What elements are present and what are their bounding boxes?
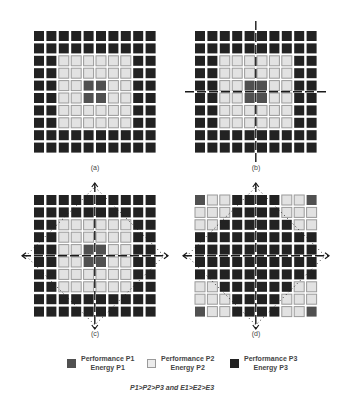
cell-P3 [232,31,242,41]
cell-P3 [282,282,292,292]
cell-P3 [133,105,143,115]
cell-P3 [59,307,69,317]
cell-P2 [282,307,292,317]
cell-P3 [257,195,267,205]
cell-P3 [195,56,205,66]
cell-P2 [294,294,304,304]
cell-P2 [282,195,292,205]
cell-P3 [245,143,255,153]
cell-P3 [220,43,230,53]
cell-P3 [71,43,81,53]
cell-P2 [232,81,242,91]
cell-P3 [34,245,44,255]
legend-item-p3: Performance P3 Energy P3 [230,354,297,372]
cell-P3 [34,56,44,66]
cell-P3 [96,294,106,304]
cell-P3 [96,31,106,41]
cell-P3 [294,257,304,267]
cell-P3 [195,93,205,103]
cell-P3 [245,31,255,41]
cell-P3 [195,143,205,153]
cell-P3 [307,81,317,91]
cell-P2 [108,257,118,267]
cell-P2 [294,207,304,217]
cell-P3 [133,31,143,41]
legend-item-p2: Performance P2 Energy P2 [147,354,214,372]
cell-P3 [121,207,131,217]
cell-P3 [46,68,56,78]
cell-P2 [220,118,230,128]
legend-performance-p2: Performance P2 [161,354,214,363]
cell-P2 [121,282,131,292]
cell-P3 [245,245,255,255]
cell-P3 [59,43,69,53]
cell-P1 [245,81,255,91]
cell-P2 [59,257,69,267]
cell-P2 [195,220,205,230]
cell-P3 [294,105,304,115]
cell-P3 [46,130,56,140]
cell-P1 [96,257,106,267]
panel-label-a: (a) [80,164,110,171]
cell-P3 [245,307,255,317]
cell-P3 [108,143,118,153]
cell-P2 [71,118,81,128]
cell-P3 [257,207,267,217]
cell-P3 [294,81,304,91]
cell-P3 [133,245,143,255]
cell-P2 [108,118,118,128]
cell-P3 [84,207,94,217]
cell-P3 [257,31,267,41]
cell-P3 [133,118,143,128]
cell-P3 [257,232,267,242]
cell-P3 [232,245,242,255]
cell-P3 [269,130,279,140]
legend-swatch-p1 [67,359,76,368]
cell-P3 [195,81,205,91]
cell-P2 [84,232,94,242]
cell-P2 [220,195,230,205]
cell-P3 [146,232,156,242]
cell-P2 [207,294,217,304]
cell-P3 [207,245,217,255]
cell-P2 [245,56,255,66]
cell-P3 [133,56,143,66]
cell-P2 [294,307,304,317]
cell-P1 [195,195,205,205]
cell-P3 [195,43,205,53]
cell-P2 [294,195,304,205]
cell-P3 [294,232,304,242]
cell-P3 [307,43,317,53]
cell-P2 [269,105,279,115]
cell-P2 [121,245,131,255]
cell-P3 [232,307,242,317]
cell-P2 [59,105,69,115]
cell-P3 [269,31,279,41]
cell-P3 [84,31,94,41]
legend-footnote: P1>P2>P3 and E1>E2>E3 [0,384,344,391]
cell-P3 [146,31,156,41]
cell-P2 [59,232,69,242]
legend-label-p2: Performance P2 Energy P2 [161,354,214,372]
cell-P3 [46,207,56,217]
cell-P2 [269,56,279,66]
cell-P3 [294,245,304,255]
cell-P3 [146,130,156,140]
cell-P3 [220,257,230,267]
cell-P1 [307,195,317,205]
cell-P3 [232,130,242,140]
cell-P2 [207,195,217,205]
cell-P3 [133,43,143,53]
grid-b [191,27,322,158]
cell-P2 [108,220,118,230]
cell-P2 [269,93,279,103]
cell-P2 [96,232,106,242]
grid-c [30,191,161,322]
cell-P3 [121,195,131,205]
cell-P3 [307,232,317,242]
cell-P2 [96,56,106,66]
cell-P1 [96,245,106,255]
cell-P3 [34,195,44,205]
cell-P3 [34,43,44,53]
cell-P2 [195,294,205,304]
